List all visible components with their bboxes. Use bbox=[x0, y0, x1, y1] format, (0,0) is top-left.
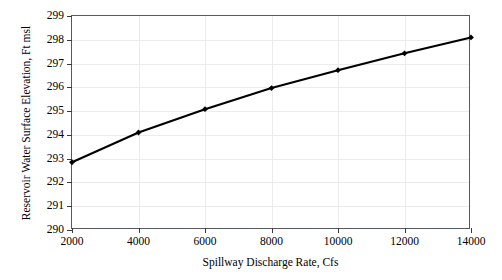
data-series-line bbox=[72, 16, 471, 230]
data-point-marker bbox=[269, 85, 275, 91]
x-axis-title: Spillway Discharge Rate, Cfs bbox=[71, 256, 470, 268]
x-tick-label: 12000 bbox=[390, 236, 419, 248]
x-tick-label: 6000 bbox=[194, 236, 217, 248]
x-tick bbox=[471, 228, 472, 233]
data-point-marker bbox=[202, 106, 208, 112]
data-point-marker bbox=[468, 35, 474, 41]
y-tick-label: 295 bbox=[47, 105, 64, 117]
x-tick-label: 8000 bbox=[260, 236, 283, 248]
y-tick-label: 297 bbox=[47, 58, 64, 70]
y-tick-label: 293 bbox=[47, 153, 64, 165]
y-tick-label: 298 bbox=[47, 34, 64, 46]
x-tick-label: 14000 bbox=[457, 236, 486, 248]
x-tick-label: 4000 bbox=[127, 236, 150, 248]
data-point-marker bbox=[402, 50, 408, 56]
chart-figure: Reservoir Water Surface Elevation, Ft ms… bbox=[0, 0, 502, 280]
y-tick-label: 291 bbox=[47, 200, 64, 212]
x-tick-label: 2000 bbox=[61, 236, 84, 248]
y-tick-label: 296 bbox=[47, 82, 64, 94]
x-tick-label: 10000 bbox=[324, 236, 353, 248]
y-axis-title-text: Reservoir Water Surface Elevation, Ft ms… bbox=[21, 26, 33, 220]
plot-area: 290291292293294295296297298299 200040006… bbox=[71, 15, 470, 229]
y-tick-label: 299 bbox=[47, 10, 64, 22]
y-tick-label: 292 bbox=[47, 177, 64, 189]
y-tick-label: 294 bbox=[47, 129, 64, 141]
y-axis-title: Reservoir Water Surface Elevation, Ft ms… bbox=[18, 12, 36, 234]
data-point-marker bbox=[335, 67, 341, 73]
